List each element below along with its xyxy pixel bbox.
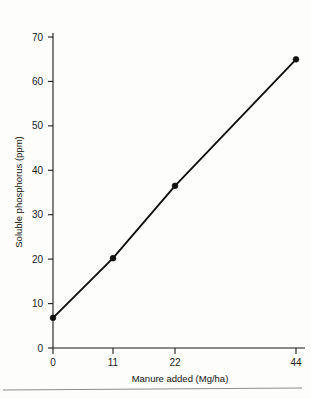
data-point-22 — [172, 183, 178, 189]
y-axis-title: Soluble phosphorus (ppm) — [13, 136, 24, 247]
x-tick-labels: 0 11 22 44 — [50, 357, 302, 368]
data-point-0 — [50, 315, 56, 321]
x-tick-label-0: 0 — [50, 357, 56, 368]
x-axis-title: Manure added (Mg/ha) — [132, 373, 229, 384]
x-tick-label-11: 11 — [108, 357, 119, 368]
y-tick-label-0: 0 — [37, 343, 43, 354]
chart-canvas: 70 60 50 40 30 20 10 0 0 11 22 44 — [0, 0, 311, 399]
x-tick-label-22: 22 — [169, 357, 181, 368]
y-tick-label-10: 10 — [32, 298, 44, 309]
x-tick-marks — [53, 348, 296, 354]
y-tick-labels: 70 60 50 40 30 20 10 0 — [32, 32, 44, 354]
y-tick-label-30: 30 — [32, 209, 44, 220]
y-tick-marks — [48, 37, 53, 348]
y-tick-label-20: 20 — [32, 254, 44, 265]
x-tick-label-44: 44 — [290, 357, 302, 368]
y-tick-label-70: 70 — [32, 32, 44, 43]
figure-container: 70 60 50 40 30 20 10 0 0 11 22 44 — [0, 0, 311, 399]
data-point-44 — [293, 56, 299, 62]
y-tick-label-50: 50 — [32, 120, 44, 131]
y-tick-label-40: 40 — [32, 165, 44, 176]
data-point-11 — [110, 255, 116, 261]
y-tick-label-60: 60 — [32, 76, 44, 87]
page-footer-rule — [3, 388, 302, 390]
